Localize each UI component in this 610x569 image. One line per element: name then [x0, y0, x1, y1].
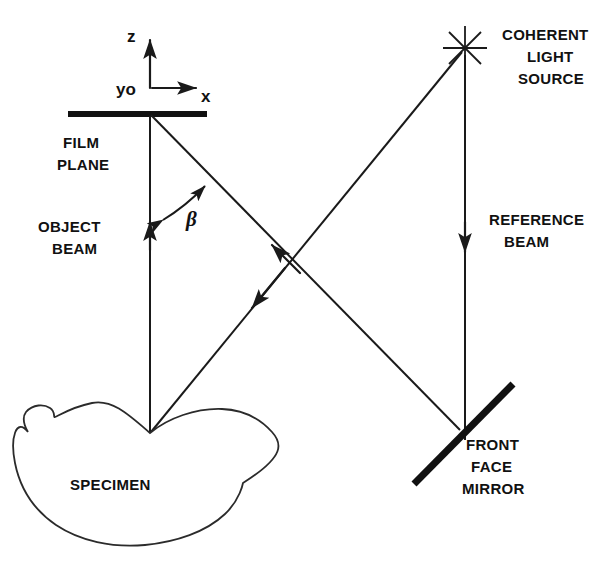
coherent-source-label-line3: SOURCE: [518, 70, 584, 87]
diagram-canvas: z x yo FILM PLANE OBJECT BEAM: [0, 0, 610, 569]
object-beam-label-line1: OBJECT: [38, 218, 101, 235]
film-plane: FILM PLANE: [57, 114, 207, 173]
reference-beam: REFERENCE BEAM: [465, 55, 584, 440]
source-to-specimen-beam-line: [151, 52, 462, 432]
mirror-label-line1: FRONT: [466, 436, 519, 453]
coordinate-axes: z x yo: [116, 27, 211, 106]
z-axis-label: z: [127, 27, 136, 46]
coherent-source-label-line1: COHERENT: [502, 26, 589, 43]
mirror-to-film-beam-direction-arrow: [272, 245, 300, 273]
specimen-label: SPECIMEN: [70, 476, 151, 493]
beta-angle: β: [163, 186, 205, 231]
reference-beam-label-line2: BEAM: [504, 233, 549, 250]
mirror-to-film-beam-line: [151, 115, 460, 430]
film-plane-label-line1: FILM: [63, 134, 99, 151]
mirror-label-line2: FACE: [471, 458, 512, 475]
reference-beam-label-line1: REFERENCE: [489, 211, 584, 228]
source-to-specimen-beam-direction-arrow: [252, 268, 285, 308]
mirror-label-line3: MIRROR: [462, 480, 525, 497]
object-beam-label-line2: BEAM: [52, 240, 97, 257]
mirror-to-film-beam: [151, 115, 460, 430]
beta-angle-label: β: [185, 207, 197, 231]
source-to-specimen-beam: [151, 52, 462, 432]
optical-setup-diagram: z x yo FILM PLANE OBJECT BEAM: [0, 0, 610, 569]
film-plane-label-line2: PLANE: [57, 156, 109, 173]
coherent-source-label-line2: LIGHT: [527, 48, 574, 65]
specimen-outline: [13, 402, 278, 545]
beta-angle-arc: [163, 186, 205, 220]
x-axis-label: x: [201, 87, 211, 106]
specimen: SPECIMEN: [13, 402, 278, 545]
y-axis-origin-label: yo: [116, 80, 136, 99]
